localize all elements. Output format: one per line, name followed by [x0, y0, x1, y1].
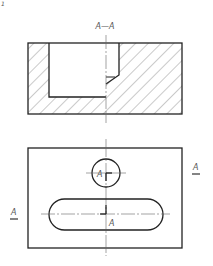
top-view-outline [28, 148, 182, 248]
technical-drawing: 1 A—A A A A A [0, 0, 213, 266]
left-section-marker: A [10, 208, 16, 217]
slot-label: A [108, 219, 114, 228]
section-title: A—A [95, 22, 115, 31]
circle-label: A [96, 170, 102, 179]
top-view: A A A A [10, 139, 200, 256]
section-hatch [28, 43, 182, 114]
section-view: A—A [28, 22, 182, 123]
corner-mark: 1 [1, 0, 5, 7]
right-section-marker: A [192, 163, 198, 172]
